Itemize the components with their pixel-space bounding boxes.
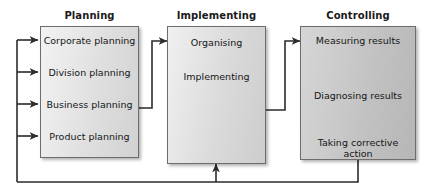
process-diagram: Planning Corporate planning Division pla… [0,0,428,196]
step-organising[interactable]: Organising [167,37,266,48]
step-implementing[interactable]: Implementing [167,71,266,82]
step-business-planning[interactable]: Business planning [40,99,139,110]
connector-implementing-to-controlling [266,41,300,110]
step-division-planning[interactable]: Division planning [40,67,139,78]
step-product-planning[interactable]: Product planning [40,131,139,142]
step-measuring-results[interactable]: Measuring results [300,35,416,46]
step-taking-corrective-action[interactable]: Taking corrective action [300,137,416,159]
connector-planning-to-implementing [139,41,167,108]
stage-title-controlling: Controlling [300,10,416,22]
step-diagnosing-results[interactable]: Diagnosing results [300,90,416,101]
feedback-bus-arrows [17,40,38,136]
stage-title-implementing: Implementing [167,10,266,22]
stage-title-planning: Planning [40,10,139,22]
step-corporate-planning[interactable]: Corporate planning [40,35,139,46]
